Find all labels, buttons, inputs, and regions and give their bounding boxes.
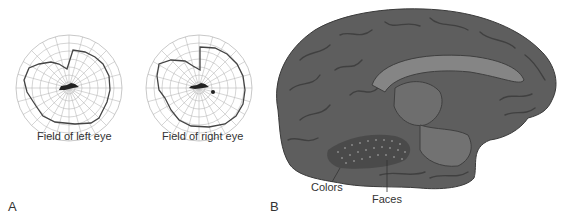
brain-medial-view [277,9,556,192]
left-eye-caption: Field of left eye [37,130,112,142]
colors-label: Colors [311,181,343,193]
faces-label: Faces [372,193,402,205]
right-eye-field-plot [146,35,252,141]
right-eye-caption: Field of right eye [162,130,243,142]
panel-b-letter: B [270,199,279,214]
perimetry-plots [0,0,571,218]
left-eye-field-plot [16,35,122,141]
panel-a-letter: A [8,199,17,214]
